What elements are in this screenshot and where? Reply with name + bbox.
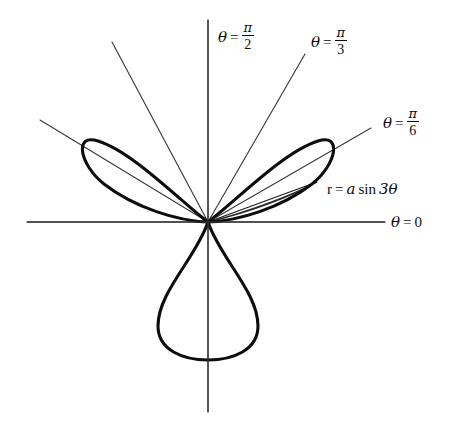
- fraction-denominator: 6: [409, 123, 416, 138]
- theta-symbol: θ: [218, 30, 227, 45]
- sine-function-name: sin: [358, 182, 376, 197]
- equals-symbol: =: [395, 116, 403, 131]
- r-symbol: r: [327, 182, 332, 197]
- fraction-pi-over-3: π 3: [335, 26, 348, 57]
- amplitude-symbol: a: [346, 182, 355, 197]
- fraction-pi-over-6: π 6: [407, 107, 420, 138]
- label-theta-pi-over-2: θ = π 2: [218, 22, 254, 53]
- fraction-pi-over-2: π 2: [242, 21, 255, 52]
- fraction-numerator: π: [335, 26, 348, 39]
- equals-symbol: =: [335, 182, 343, 197]
- fraction-numerator: π: [407, 107, 420, 120]
- fraction-bar: [407, 121, 420, 122]
- fraction-denominator: 2: [244, 37, 251, 52]
- theta-symbol: θ: [311, 35, 320, 50]
- fraction-denominator: 3: [337, 42, 344, 57]
- equals-symbol: =: [403, 215, 411, 230]
- theta-zero-value: 0: [415, 215, 423, 230]
- fraction-bar: [335, 40, 348, 41]
- theta-symbol: θ: [391, 215, 400, 230]
- label-theta-pi-over-3: θ = π 3: [311, 27, 347, 58]
- sine-argument: 3θ: [379, 182, 398, 197]
- theta-symbol: θ: [383, 116, 392, 131]
- equals-symbol: =: [230, 30, 238, 45]
- label-theta-zero: θ = 0: [391, 214, 422, 230]
- fraction-numerator: π: [242, 21, 255, 34]
- label-curve-equation: r = a sin 3θ: [327, 182, 398, 197]
- equals-symbol: =: [323, 35, 331, 50]
- fraction-bar: [242, 35, 255, 36]
- label-theta-pi-over-6: θ = π 6: [383, 108, 419, 139]
